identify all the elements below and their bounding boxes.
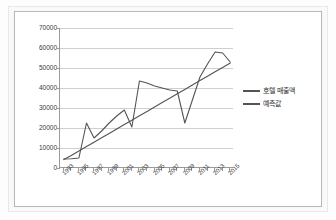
legend-item[interactable]: 호텔 매출액 <box>243 84 319 97</box>
legend-color-swatch <box>243 90 260 92</box>
y-axis: 010000200003000040000500006000070000 <box>15 28 57 168</box>
legend-item-label: 예측값 <box>263 100 281 107</box>
y-axis-tick-label: 0 <box>15 165 57 172</box>
y-axis-tick-label: 50000 <box>15 65 57 72</box>
x-axis: 1993199519971999200120032005200720092011… <box>59 172 245 206</box>
legend-item-label: 호텔 매출액 <box>263 87 295 94</box>
y-axis-tick-label: 70000 <box>15 25 57 32</box>
y-axis-tick-label: 40000 <box>15 85 57 92</box>
chart-screenshot: 010000200003000040000500006000070000 199… <box>0 0 336 220</box>
plot-area <box>59 28 233 168</box>
y-axis-tick-label: 20000 <box>15 125 57 132</box>
y-axis-tick-label: 30000 <box>15 105 57 112</box>
y-axis-tick-label: 10000 <box>15 145 57 152</box>
legend-color-swatch <box>243 103 260 105</box>
data-lines <box>60 28 234 168</box>
chart-legend: 호텔 매출액 예측값 <box>243 84 319 110</box>
y-axis-tick-label: 60000 <box>15 45 57 52</box>
series-line-hotel-sales <box>64 52 230 159</box>
series-line-forecast <box>64 63 230 160</box>
chart-container: 010000200003000040000500006000070000 199… <box>14 11 322 207</box>
legend-item[interactable]: 예측값 <box>243 97 319 110</box>
